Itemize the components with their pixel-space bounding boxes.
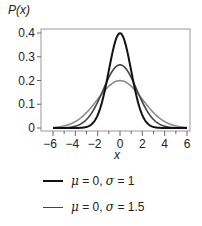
x-tick-label: −6: [43, 137, 57, 151]
legend-item-sigma-1-5: μ = 0, σ = 1.5: [43, 200, 144, 214]
legend-item-sigma-1: μ = 0, σ = 1: [43, 174, 134, 188]
y-tick-label: 0.1: [18, 97, 35, 111]
y-tick-label: 0.3: [18, 50, 35, 64]
x-tick-label: −2: [88, 137, 102, 151]
chart-area: 00.10.20.30.4−6−4−20246: [0, 0, 202, 226]
curve-sigma-2: [53, 81, 187, 128]
x-axis-title: x: [114, 148, 120, 162]
curve-sigma-1-5: [53, 65, 187, 128]
legend-swatch: [43, 207, 63, 208]
x-tick-label: 4: [161, 137, 168, 151]
x-tick-label: 6: [184, 137, 191, 151]
y-tick-label: 0.2: [18, 74, 35, 88]
x-tick-label: −4: [65, 137, 79, 151]
legend-label: μ = 0, σ = 1: [71, 174, 134, 188]
legend-label: μ = 0, σ = 1.5: [71, 200, 144, 214]
x-tick-label: 2: [139, 137, 146, 151]
y-tick-label: 0.4: [18, 26, 35, 40]
y-tick-label: 0: [28, 121, 35, 135]
plot-frame: [41, 29, 190, 131]
legend-swatch: [43, 180, 63, 182]
y-axis-title: P(x): [8, 3, 30, 17]
